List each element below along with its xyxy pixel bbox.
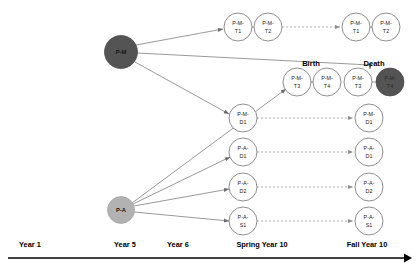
node-fall-pa-d1-line1: P-A- bbox=[364, 145, 375, 151]
node-spring-pa-d2-line1: P-A- bbox=[238, 180, 249, 186]
node-fall-pm-t4-dead[interactable]: P-M- T4 bbox=[376, 68, 404, 96]
node-spring-pm-t4[interactable]: P-M- T4 bbox=[313, 68, 341, 96]
node-fall-pa-s1-line2: S1 bbox=[366, 222, 373, 228]
node-spring-pm-t1[interactable]: P-M- T1 bbox=[224, 13, 252, 41]
node-hub-pa[interactable]: P-A bbox=[108, 197, 135, 224]
node-spring-pm-d1[interactable]: P-M- D1 bbox=[229, 104, 257, 132]
edge-pa-to-spring-pa-d2 bbox=[134, 189, 229, 206]
node-fall-pa-d2-line2: D2 bbox=[366, 188, 373, 194]
node-spring-pm-t4-line1: P-M- bbox=[321, 75, 333, 81]
node-fall-pm-d1[interactable]: P-M- D1 bbox=[355, 104, 383, 132]
node-fall-pm-t4-line1: P-M- bbox=[384, 75, 396, 81]
diagram-canvas: P-M P-A P-M- T1 P-M- T2 P-M- T1 bbox=[0, 0, 418, 269]
node-spring-pa-d1-line1: P-A- bbox=[238, 145, 249, 151]
edge-pa-to-spring-pa-d1 bbox=[133, 157, 230, 204]
node-spring-pm-t2-line1: P-M- bbox=[262, 20, 274, 26]
node-fall-pa-s1-line1: P-A- bbox=[364, 214, 375, 220]
edge-pm-to-fall-pm-t3-death bbox=[137, 53, 370, 69]
node-spring-pa-s1[interactable]: P-A- S1 bbox=[229, 207, 257, 235]
node-fall-pm-t3-line1: P-M- bbox=[352, 75, 364, 81]
node-fall-pa-d1-line2: D1 bbox=[366, 153, 373, 159]
node-spring-pm-d1-line2: D1 bbox=[240, 119, 247, 125]
node-spring-pa-d1-line2: D1 bbox=[240, 153, 247, 159]
node-fall-pm-d1-line2: D1 bbox=[366, 119, 373, 125]
timeline-label-year-1: Year 1 bbox=[19, 240, 41, 249]
node-layer: P-M P-A P-M- T1 P-M- T2 P-M- T1 bbox=[105, 13, 405, 235]
node-fall-pm-t1-line2: T1 bbox=[353, 28, 359, 34]
node-spring-pm-t3[interactable]: P-M- T3 bbox=[283, 68, 311, 96]
edge-pm-to-spring-pm-t1 bbox=[136, 29, 223, 45]
node-spring-pa-s1-line2: S1 bbox=[240, 222, 247, 228]
edge-pa-to-spring-pm-t3-birth bbox=[132, 89, 286, 203]
node-spring-pa-d2-line2: D2 bbox=[240, 188, 247, 194]
timeline-axis-arrowhead bbox=[404, 254, 412, 263]
node-fall-pm-t2[interactable]: P-M- T2 bbox=[372, 13, 400, 41]
timeline-label-year-5: Year 5 bbox=[114, 240, 136, 249]
node-spring-pa-d2[interactable]: P-A- D2 bbox=[229, 173, 257, 201]
node-hub-pm-label: P-M bbox=[116, 49, 127, 55]
edge-pa-to-spring-pa-s1 bbox=[134, 212, 229, 221]
node-fall-pa-s1[interactable]: P-A- S1 bbox=[355, 207, 383, 235]
node-fall-pm-t1-line1: P-M- bbox=[350, 20, 362, 26]
node-fall-pa-d2-line1: P-A- bbox=[364, 180, 375, 186]
edge-pm-to-spring-pm-d1 bbox=[135, 62, 229, 114]
death-label: Death bbox=[363, 59, 384, 68]
node-spring-pm-t4-line2: T4 bbox=[324, 83, 330, 89]
node-fall-pm-d1-line1: P-M- bbox=[363, 111, 375, 117]
node-spring-pa-d1[interactable]: P-A- D1 bbox=[229, 138, 257, 166]
node-fall-pm-t4-line2: T4 bbox=[387, 83, 393, 89]
node-fall-pm-t2-line2: T2 bbox=[383, 28, 389, 34]
timeline-label-spring-year-10: Spring Year 10 bbox=[236, 240, 287, 249]
node-spring-pm-t2-line2: T2 bbox=[265, 28, 271, 34]
node-hub-pm[interactable]: P-M bbox=[105, 36, 138, 69]
node-fall-pm-t1[interactable]: P-M- T1 bbox=[342, 13, 370, 41]
timeline-axis: Year 1 Year 5 Year 6 Spring Year 10 Fall… bbox=[8, 240, 412, 262]
node-spring-pm-t2[interactable]: P-M- T2 bbox=[254, 13, 282, 41]
node-spring-pm-t1-line1: P-M- bbox=[232, 20, 244, 26]
node-spring-pm-t1-line2: T1 bbox=[235, 28, 241, 34]
birth-label: Birth bbox=[302, 59, 320, 68]
node-fall-pa-d2[interactable]: P-A- D2 bbox=[355, 173, 383, 201]
lineage-diagram: P-M P-A P-M- T1 P-M- T2 P-M- T1 bbox=[0, 0, 418, 269]
node-fall-pm-t3-line2: T3 bbox=[355, 83, 361, 89]
node-hub-pa-label: P-A bbox=[116, 207, 127, 213]
node-fall-pa-d1[interactable]: P-A- D1 bbox=[355, 138, 383, 166]
node-spring-pm-d1-line1: P-M- bbox=[237, 111, 249, 117]
node-spring-pm-t3-line2: T3 bbox=[294, 83, 300, 89]
node-fall-pm-t2-line1: P-M- bbox=[380, 20, 392, 26]
node-fall-pm-t3[interactable]: P-M- T3 bbox=[344, 68, 372, 96]
node-spring-pa-s1-line1: P-A- bbox=[238, 214, 249, 220]
timeline-label-year-6: Year 6 bbox=[167, 240, 189, 249]
timeline-label-fall-year-10: Fall Year 10 bbox=[347, 240, 388, 249]
node-spring-pm-t3-line1: P-M- bbox=[291, 75, 303, 81]
